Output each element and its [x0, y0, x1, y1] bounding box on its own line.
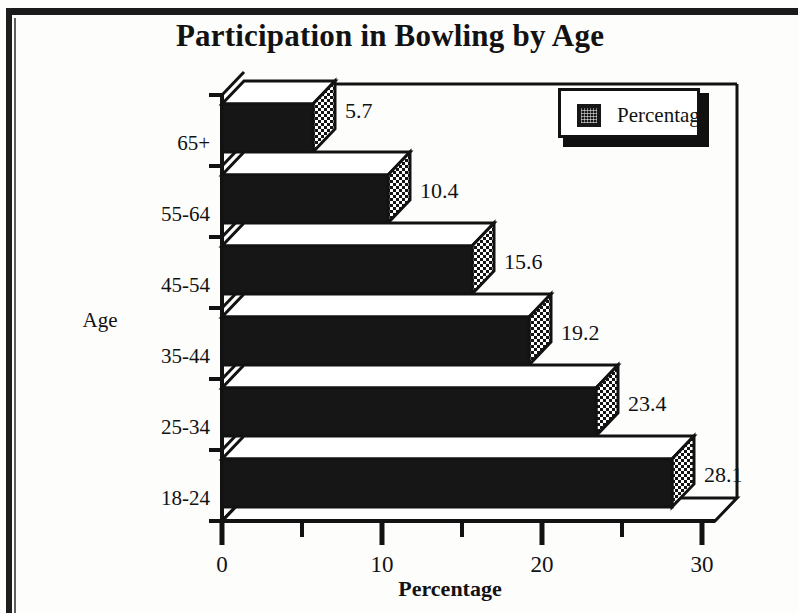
category-label-65plus: 65+: [100, 133, 210, 154]
value-label-25-34: 23.4: [628, 393, 667, 415]
bar-18-24[interactable]: [222, 436, 694, 507]
legend-box: Percentage: [558, 88, 700, 138]
y-axis-title: Age: [55, 309, 145, 331]
x-tick-label-20: 20: [512, 553, 572, 576]
x-axis: [222, 521, 715, 545]
category-label-35-44: 35-44: [100, 346, 210, 367]
x-tick-label-30: 30: [672, 553, 732, 576]
bar-65plus[interactable]: [222, 81, 335, 152]
bar-35-44[interactable]: [222, 294, 551, 365]
x-tick-label-0: 0: [192, 553, 252, 576]
value-label-45-54: 15.6: [504, 251, 543, 273]
category-label-45-54: 45-54: [100, 275, 210, 296]
legend-swatch-percentage: [577, 104, 601, 127]
category-label-55-64: 55-64: [100, 204, 210, 225]
x-axis-title: Percentage: [340, 577, 560, 601]
bar-45-54[interactable]: [222, 223, 494, 294]
bar-25-34[interactable]: [222, 365, 618, 436]
value-label-55-64: 10.4: [420, 180, 459, 202]
category-label-25-34: 25-34: [100, 417, 210, 438]
chart-page: Participation in Bowling by Age: [0, 0, 798, 613]
value-label-65plus: 5.7: [345, 100, 373, 122]
value-label-35-44: 19.2: [561, 322, 600, 344]
x-tick-label-10: 10: [352, 553, 412, 576]
category-label-18-24: 18-24: [100, 488, 210, 509]
legend[interactable]: Percentage: [558, 88, 704, 142]
legend-label-percentage: Percentage: [617, 104, 709, 127]
value-label-18-24: 28.1: [704, 464, 743, 486]
bar-55-64[interactable]: [222, 152, 410, 223]
